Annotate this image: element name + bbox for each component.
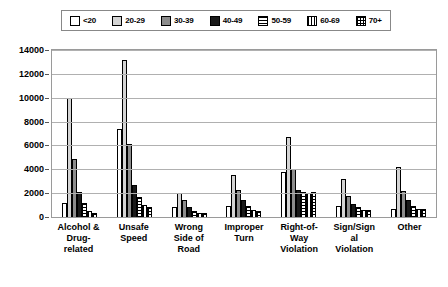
gridline (52, 122, 436, 123)
y-axis-tick-mark (45, 74, 49, 75)
bar-group (391, 50, 426, 217)
bar-group (281, 50, 316, 217)
bar-group (117, 50, 152, 217)
x-axis-category-label: Alcohol &Drug-related (53, 222, 105, 255)
y-axis-tick-label: 6000 (24, 141, 44, 150)
y-axis-tick-mark (45, 122, 49, 123)
legend-item--20: <20 (70, 16, 96, 26)
y-axis-tick-label: 14000 (19, 46, 44, 55)
y-axis-tick-mark (45, 217, 49, 218)
gridline (52, 74, 436, 75)
x-axis-label-line: al (328, 233, 380, 244)
gridline (52, 50, 436, 51)
y-axis: 02000400060008000100001200014000 (0, 49, 48, 218)
gridline (52, 169, 436, 170)
legend-item-50-59: 50-59 (258, 16, 290, 26)
bar-group (172, 50, 207, 217)
x-axis-category-label: ImproperTurn (218, 222, 270, 244)
legend-item-60-69: 60-69 (307, 16, 339, 26)
chart-legend: <2020-2930-3940-4950-5960-6970+ (61, 10, 391, 31)
x-axis-label-line: Violation (328, 244, 380, 255)
legend-swatch-icon (210, 16, 220, 26)
legend-label: 30-39 (174, 17, 193, 25)
legend-item-70-: 70+ (356, 16, 382, 26)
x-axis-category-label: Sign/SignalViolation (328, 222, 380, 255)
legend-label: 70+ (369, 17, 382, 25)
legend-swatch-icon (356, 16, 366, 26)
x-axis-labels: Alcohol &Drug-relatedUnsafeSpeedWrongSid… (51, 222, 437, 284)
legend-label: 20-29 (125, 17, 144, 25)
x-axis-label-line: Speed (108, 233, 160, 244)
x-axis-label-line: Drug- (53, 233, 105, 244)
y-axis-tick-mark (45, 145, 49, 146)
x-axis-category-label: WrongSide ofRoad (163, 222, 215, 255)
x-axis-label-line: Unsafe (108, 222, 160, 233)
y-axis-tick-label: 12000 (19, 69, 44, 78)
y-axis-tick-label: 4000 (24, 165, 44, 174)
x-axis-label-line: Side of (163, 233, 215, 244)
legend-swatch-icon (307, 16, 317, 26)
bar-group (62, 50, 97, 217)
plot-area (51, 49, 437, 218)
y-axis-tick-mark (45, 169, 49, 170)
gridline (52, 193, 436, 194)
legend-label: 60-69 (320, 17, 339, 25)
bar (366, 210, 371, 217)
bars-layer (52, 50, 436, 217)
bar-group (226, 50, 261, 217)
bar (256, 211, 261, 217)
bar (311, 192, 316, 217)
legend-item-30-39: 30-39 (161, 16, 193, 26)
y-axis-tick-label: 0 (39, 213, 44, 222)
x-axis-label-line: Alcohol & (53, 222, 105, 233)
gridline (52, 98, 436, 99)
bar (147, 207, 152, 217)
bar (202, 213, 207, 217)
bar (92, 213, 97, 217)
y-axis-tick-mark (45, 193, 49, 194)
legend-label: <20 (83, 17, 96, 25)
x-axis-category-label: UnsafeSpeed (108, 222, 160, 244)
legend-item-40-49: 40-49 (210, 16, 242, 26)
y-axis-tick-label: 10000 (19, 93, 44, 102)
legend-swatch-icon (161, 16, 171, 26)
x-axis-label-line: Way (273, 233, 325, 244)
bar (421, 209, 426, 217)
legend-swatch-icon (258, 16, 268, 26)
x-axis-category-label: Other (383, 222, 435, 233)
bar-chart: <2020-2930-3940-4950-5960-6970+ 02000400… (0, 0, 448, 287)
x-axis-label-line: Turn (218, 233, 270, 244)
legend-label: 50-59 (271, 17, 290, 25)
x-axis-label-line: Sign/Sign (328, 222, 380, 233)
x-axis-category-label: Right-of-WayViolation (273, 222, 325, 255)
legend-label: 40-49 (223, 17, 242, 25)
y-axis-tick-mark (45, 50, 49, 51)
x-axis-label-line: Right-of- (273, 222, 325, 233)
bar-group (336, 50, 371, 217)
legend-item-20-29: 20-29 (112, 16, 144, 26)
x-axis-label-line: Road (163, 244, 215, 255)
x-axis-label-line: related (53, 244, 105, 255)
y-axis-tick-label: 8000 (24, 117, 44, 126)
x-axis-label-line: Wrong (163, 222, 215, 233)
y-axis-tick-label: 2000 (24, 189, 44, 198)
x-axis-label-line: Other (383, 222, 435, 233)
x-axis-label-line: Improper (218, 222, 270, 233)
y-axis-tick-mark (45, 98, 49, 99)
x-axis-label-line: Violation (273, 244, 325, 255)
gridline (52, 145, 436, 146)
legend-swatch-icon (112, 16, 122, 26)
legend-swatch-icon (70, 16, 80, 26)
